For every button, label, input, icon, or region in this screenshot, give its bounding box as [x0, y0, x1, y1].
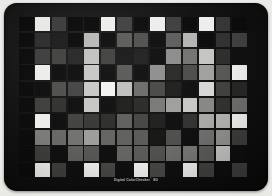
patch	[116, 146, 132, 162]
patch-swatch	[19, 17, 34, 31]
patch-swatch	[150, 49, 165, 63]
patch	[215, 129, 231, 145]
patch-swatch	[166, 163, 181, 177]
patch-swatch	[150, 114, 165, 128]
patch-swatch	[232, 130, 247, 144]
patch-swatch	[183, 49, 198, 63]
patch-swatch	[232, 65, 247, 79]
patch	[67, 32, 83, 48]
patch	[231, 97, 247, 113]
patch	[231, 113, 247, 129]
patch	[166, 16, 182, 32]
patch	[149, 65, 165, 81]
patch	[84, 129, 100, 145]
patch	[133, 81, 149, 97]
patch-swatch	[117, 98, 132, 112]
patch-swatch	[134, 114, 149, 128]
patch	[34, 113, 50, 129]
patch-swatch	[68, 146, 83, 160]
patch	[133, 97, 149, 113]
patch	[133, 146, 149, 162]
patch-swatch	[19, 98, 34, 112]
patch-swatch	[150, 33, 165, 47]
patch	[84, 162, 100, 178]
patch	[34, 32, 50, 48]
patch	[116, 48, 132, 64]
patch	[149, 32, 165, 48]
patch	[198, 129, 214, 145]
patch-swatch	[52, 49, 67, 63]
patch	[133, 16, 149, 32]
patch	[51, 146, 67, 162]
patch-swatch	[117, 33, 132, 47]
patch	[67, 162, 83, 178]
patch-swatch	[232, 33, 247, 47]
patch-grid	[18, 16, 247, 178]
patch-swatch	[232, 49, 247, 63]
patch-swatch	[232, 114, 247, 128]
patch	[116, 16, 132, 32]
patch	[231, 146, 247, 162]
patch-swatch	[101, 163, 116, 177]
patch-swatch	[84, 17, 99, 31]
patch-swatch	[117, 114, 132, 128]
patch-swatch	[216, 146, 231, 160]
patch-swatch	[183, 146, 198, 160]
patch	[67, 113, 83, 129]
patch	[100, 32, 116, 48]
patch	[215, 32, 231, 48]
patch	[182, 16, 198, 32]
patch	[231, 81, 247, 97]
patch-swatch	[183, 33, 198, 47]
patch	[182, 32, 198, 48]
patch	[34, 146, 50, 162]
patch-swatch	[183, 65, 198, 79]
patch	[198, 32, 214, 48]
patch-swatch	[19, 65, 34, 79]
target-panel: Digital ColorChecker®SG	[4, 3, 268, 191]
product-label-name: Digital ColorChecker	[114, 178, 150, 182]
patch	[51, 48, 67, 64]
patch-swatch	[35, 82, 50, 96]
patch-swatch	[216, 114, 231, 128]
patch-swatch	[117, 130, 132, 144]
patch	[116, 162, 132, 178]
patch	[149, 146, 165, 162]
patch-swatch	[216, 130, 231, 144]
patch-swatch	[84, 98, 99, 112]
patch-swatch	[166, 33, 181, 47]
patch-swatch	[199, 17, 214, 31]
patch-swatch	[19, 163, 34, 177]
patch	[149, 48, 165, 64]
patch-swatch	[150, 82, 165, 96]
patch-swatch	[134, 130, 149, 144]
patch	[51, 129, 67, 145]
patch	[100, 146, 116, 162]
patch	[100, 97, 116, 113]
patch-swatch	[166, 146, 181, 160]
patch	[198, 113, 214, 129]
patch	[149, 16, 165, 32]
patch	[18, 81, 34, 97]
patch-swatch	[216, 49, 231, 63]
patch	[149, 97, 165, 113]
patch	[198, 48, 214, 64]
patch	[215, 81, 231, 97]
patch	[67, 81, 83, 97]
patch-swatch	[150, 17, 165, 31]
patch	[18, 162, 34, 178]
patch	[84, 48, 100, 64]
patch	[182, 129, 198, 145]
patch	[67, 48, 83, 64]
patch-swatch	[84, 33, 99, 47]
patch	[231, 162, 247, 178]
patch-swatch	[52, 82, 67, 96]
patch	[116, 65, 132, 81]
patch-swatch	[183, 82, 198, 96]
patch-swatch	[199, 98, 214, 112]
patch-swatch	[84, 163, 99, 177]
patch-swatch	[101, 82, 116, 96]
patch-swatch	[183, 130, 198, 144]
patch	[166, 97, 182, 113]
patch	[133, 32, 149, 48]
